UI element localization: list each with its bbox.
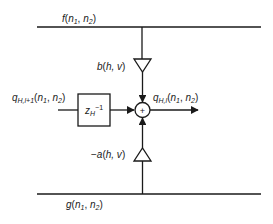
gain-a-triangle xyxy=(134,148,151,161)
summer-plus-symbol: + xyxy=(140,106,145,116)
output-signal-label: qH,l(n1, n2) xyxy=(153,93,198,104)
gain-a-label: −a(h, v) xyxy=(91,150,125,160)
input-signal-label: qH,l+1(n1, n2) xyxy=(12,93,65,104)
gain-b-triangle xyxy=(134,59,151,72)
gain-b-label: b(h, v) xyxy=(97,62,125,72)
delay-label: zH−1 xyxy=(85,104,103,117)
top-signal-label: f(n1, n2) xyxy=(62,14,96,25)
bottom-signal-label: g(n1, n2) xyxy=(66,200,103,211)
signal-flow-diagram: + xyxy=(0,0,273,224)
